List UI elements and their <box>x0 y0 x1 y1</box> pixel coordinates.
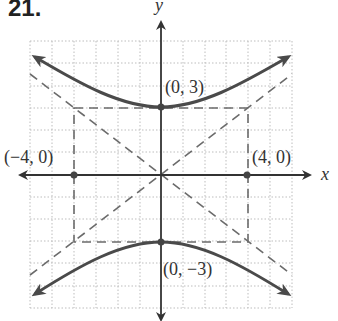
x-axis-label: x <box>321 164 329 185</box>
point-label-bottom: (0, −3) <box>163 259 212 280</box>
vertex-top <box>158 104 165 111</box>
co-vertex-left <box>71 172 78 179</box>
co-vertex-right <box>244 172 251 179</box>
point-label-top: (0, 3) <box>165 77 204 98</box>
point-label-left: (−4, 0) <box>4 147 53 168</box>
vertex-bottom <box>158 239 165 246</box>
y-axis-label: y <box>155 0 163 16</box>
point-label-right: (4, 0) <box>252 147 291 168</box>
